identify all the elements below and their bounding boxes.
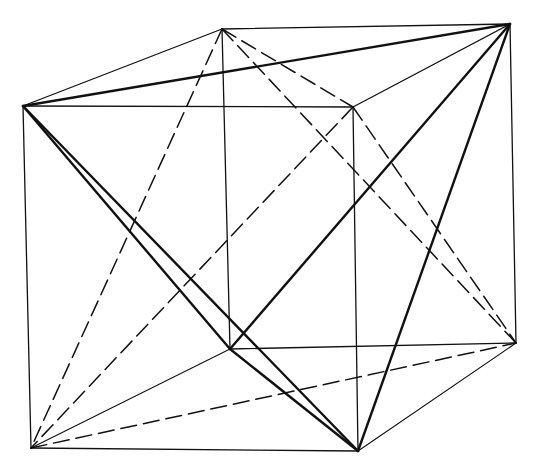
edge-BG [353,107,516,343]
edge-BC [353,107,358,451]
edge-HG [230,343,516,349]
edge-FG [510,24,516,343]
edge-DG [31,343,516,448]
edge-DA [23,106,31,448]
edge-AH [23,106,230,349]
edge-EF [222,24,510,29]
edge-FC [358,24,510,451]
stella-octangula-figure [0,0,538,473]
edge-EH [222,29,230,349]
edge-CD [31,448,358,451]
edge-AB [23,106,353,107]
edge-HC [230,349,358,451]
diagram-canvas [0,0,538,473]
edge-CG [358,343,516,451]
edge-DH [31,349,230,448]
edge-AF [23,24,510,106]
edge-EG [222,29,516,343]
